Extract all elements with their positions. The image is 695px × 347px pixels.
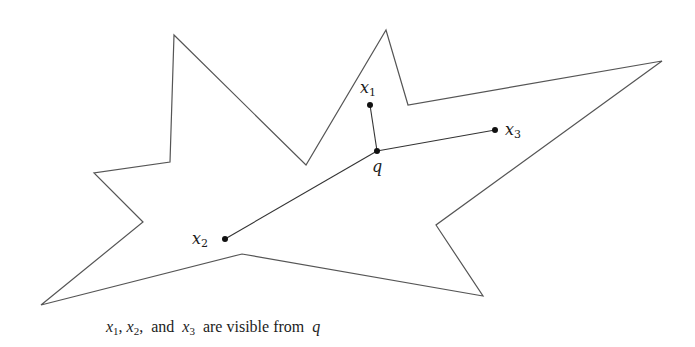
point-x1 (367, 102, 373, 108)
label-x2: x2 (192, 231, 208, 249)
star-polygon-figure (0, 0, 695, 347)
figure-caption: x1, x2, and x3 are visible from q (106, 318, 320, 337)
label-x1: x1 (360, 80, 376, 98)
segment-q-x2 (225, 151, 377, 239)
star-shaped-polygon (41, 30, 662, 305)
label-q: q (372, 159, 382, 175)
point-x3 (492, 127, 498, 133)
label-x3: x3 (505, 122, 521, 140)
segment-q-x1 (370, 105, 377, 151)
segment-q-x3 (377, 130, 495, 151)
point-x2 (222, 236, 228, 242)
point-q (374, 148, 380, 154)
